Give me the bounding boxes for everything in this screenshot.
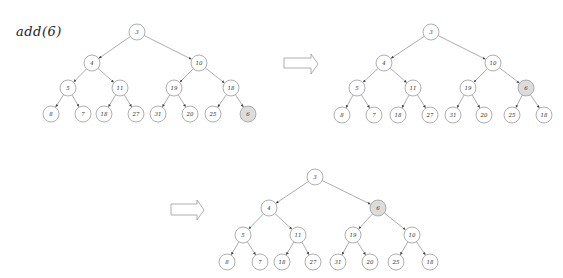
tree-edge [235, 95, 243, 107]
tree-edge [302, 242, 309, 255]
tree-node: 11 [405, 80, 421, 96]
node-label: 4 [381, 60, 386, 66]
node-label: 8 [225, 259, 229, 265]
tree-edge [322, 181, 370, 205]
node-label: 4 [266, 205, 271, 211]
tree-edge [275, 214, 292, 230]
tree-node: 27 [128, 106, 144, 122]
node-label: 31 [155, 111, 162, 117]
tree-node: 31 [445, 107, 461, 123]
node-label: 18 [395, 112, 402, 118]
tree-node: 5 [235, 227, 251, 243]
node-label: 20 [480, 112, 488, 118]
tree-edge [144, 36, 191, 60]
diagram-canvas: 3410511191887182731202563410511196871827… [0, 0, 563, 278]
tree-edge [457, 95, 464, 108]
tree-edge [416, 242, 425, 255]
tree-node: 25 [205, 106, 221, 122]
tree-edge [390, 68, 407, 82]
tree-node-highlighted: 6 [370, 200, 386, 216]
tree-edge [249, 214, 264, 229]
tree-node: 25 [388, 254, 404, 270]
node-label: 25 [209, 111, 217, 117]
tree-node: 8 [334, 107, 350, 123]
tree-edge [231, 242, 239, 255]
node-label: 8 [340, 112, 344, 118]
tree-node: 20 [182, 106, 198, 122]
node-label: 6 [376, 205, 380, 211]
tree-node: 19 [166, 80, 182, 96]
node-label: 27 [309, 259, 317, 265]
node-label: 5 [355, 85, 359, 91]
tree-edge [359, 214, 373, 229]
tree-edge [516, 95, 522, 107]
node-label: 10 [490, 60, 497, 66]
node-label: 27 [426, 112, 434, 118]
tree-node: 4 [84, 55, 100, 71]
tree-edge [163, 95, 170, 107]
node-label: 18 [541, 112, 548, 118]
heap-tree-step-1-insert-at-end: 341051119188718273120256 [43, 24, 256, 122]
tree-node-highlighted: 6 [240, 106, 256, 122]
node-label: 3 [313, 174, 317, 180]
tree-edge [286, 242, 294, 255]
node-label: 5 [241, 232, 245, 238]
tree-edge [346, 95, 353, 108]
tree-edge [205, 68, 224, 83]
tree-node: 5 [60, 80, 76, 96]
tree-node: 4 [261, 200, 277, 216]
operation-caption: add(6) [16, 24, 62, 39]
node-label: 7 [372, 112, 376, 118]
node-label: 10 [196, 60, 203, 66]
tree-edge [400, 242, 408, 255]
tree-edge [363, 68, 378, 82]
tree-node: 11 [112, 80, 128, 96]
tree-edge [361, 95, 369, 108]
tree-node: 3 [129, 24, 145, 40]
node-label: 6 [524, 85, 528, 91]
node-label: 18 [101, 111, 108, 117]
node-label: 20 [366, 259, 374, 265]
tree-edge [56, 95, 64, 107]
tree-node: 11 [290, 227, 306, 243]
node-label: 18 [279, 259, 286, 265]
tree-edge [124, 95, 131, 107]
tree-node: 18 [96, 106, 112, 122]
node-label: 5 [66, 85, 70, 91]
node-label: 10 [409, 232, 416, 238]
heap-tree-step-3-swap-with-10: 346511191087182731202518 [219, 169, 438, 270]
tree-edge [438, 36, 485, 60]
tree-node: 27 [422, 107, 438, 123]
tree-edge [74, 69, 87, 82]
node-label: 19 [350, 232, 357, 238]
node-label: 11 [117, 85, 124, 91]
node-label: 25 [508, 112, 516, 118]
tree-edge [178, 95, 185, 107]
tree-node: 5 [349, 80, 365, 96]
tree-edge [384, 213, 405, 230]
tree-node: 18 [422, 254, 438, 270]
tree-node-highlighted: 6 [518, 80, 534, 96]
tree-node: 19 [460, 80, 476, 96]
node-label: 19 [465, 85, 472, 91]
step-arrow-2-icon [171, 200, 204, 220]
node-label: 25 [392, 259, 400, 265]
tree-edge [342, 242, 349, 255]
heap-insert-diagram: add(6) 341051119188718273120256341051119… [0, 0, 563, 278]
tree-edge [247, 242, 255, 255]
node-label: 18 [228, 85, 235, 91]
tree-node: 25 [504, 107, 520, 123]
tree-node: 10 [485, 55, 501, 71]
tree-node: 10 [404, 227, 420, 243]
tree-node: 20 [476, 107, 492, 123]
node-label: 3 [135, 29, 139, 35]
tree-node: 3 [307, 169, 323, 185]
tree-node: 27 [305, 254, 321, 270]
node-label: 11 [295, 232, 302, 238]
tree-edge [99, 37, 130, 59]
heap-tree-step-2-swap-with-18: 341051119687182731202518 [334, 24, 552, 123]
tree-node: 18 [274, 254, 290, 270]
tree-edge [180, 69, 193, 82]
tree-node: 7 [366, 107, 382, 123]
tree-node: 20 [362, 254, 378, 270]
